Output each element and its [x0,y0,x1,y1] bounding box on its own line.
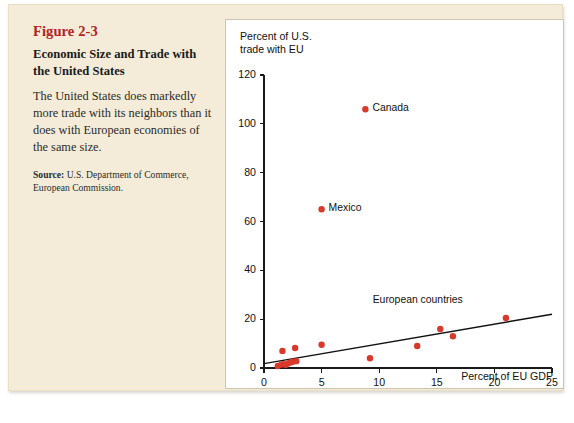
trendline-annotation: European countries [373,294,463,305]
data-point-canada [362,106,368,112]
x-tick-label: 0 [244,376,284,388]
x-tick-label: 10 [359,376,399,388]
data-point [275,363,281,369]
y-tick-label: 80 [226,166,256,178]
y-tick-label: 60 [226,215,256,227]
x-axis-title: Percent of EU GDP [461,370,553,382]
data-point [437,326,443,332]
figure-source: Source: U.S. Department of Commerce, Eur… [33,169,215,195]
figure-title: Economic Size and Trade with the United … [33,46,215,79]
data-point [414,343,420,349]
y-tick-label: 120 [226,68,256,80]
figure-card: Figure 2-3 Economic Size and Trade with … [8,4,563,391]
source-label: Source: [33,169,64,180]
point-label-canada: Canada [372,102,408,113]
data-point [450,333,456,339]
data-point-mexico [318,206,324,212]
data-point [503,315,509,321]
data-point [293,358,299,364]
data-point [279,348,285,354]
y-tick-label: 40 [226,263,256,275]
trend-line [264,314,552,363]
y-tick-label: 20 [226,312,256,324]
figure-description: The United States does markedly more tra… [33,88,215,156]
figure-page: Figure 2-3 Economic Size and Trade with … [0,0,574,423]
point-label-mexico: Mexico [329,202,362,213]
figure-number: Figure 2-3 [33,23,215,40]
chart-panel: Percent of U.S. trade with EU 0204060801… [225,19,564,389]
y-tick-label: 0 [226,361,256,373]
data-point [367,355,373,361]
data-point [318,342,324,348]
y-tick-label: 100 [226,117,256,129]
plot-svg [226,20,563,388]
figure-caption: Figure 2-3 Economic Size and Trade with … [33,23,215,373]
x-tick-label: 5 [302,376,342,388]
scatter-plot: 0204060801001200510152025CanadaMexicoEur… [226,20,563,388]
x-tick-label: 15 [417,376,457,388]
data-point [292,345,298,351]
